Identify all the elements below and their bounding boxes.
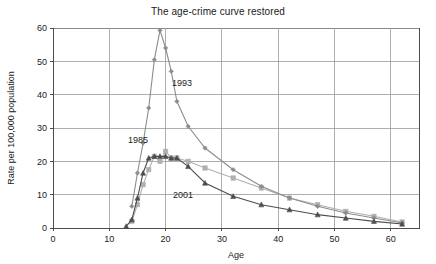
series-annotations: 199319852001 xyxy=(128,78,193,200)
x-tick-label: 60 xyxy=(386,234,396,244)
data-point-marker xyxy=(169,69,173,73)
y-tick-label: 0 xyxy=(42,223,47,233)
data-point-marker xyxy=(203,166,207,170)
axis-labels: 01020304050600102030405060AgeRate per 10… xyxy=(6,23,396,260)
x-tick-label: 50 xyxy=(330,234,340,244)
y-axis-label: Rate per 100,000 population xyxy=(6,71,16,185)
x-axis-label: Age xyxy=(228,250,244,260)
data-point-marker xyxy=(141,182,145,186)
data-point-marker xyxy=(186,159,190,163)
data-point-marker xyxy=(163,46,167,50)
age-crime-line-chart: 01020304050600102030405060AgeRate per 10… xyxy=(0,0,436,264)
data-point-marker xyxy=(158,159,162,163)
series-line-1985 xyxy=(132,151,402,222)
data-point-marker xyxy=(135,171,139,175)
series-annotation-1993: 1993 xyxy=(172,78,192,88)
x-tick-label: 30 xyxy=(217,234,227,244)
x-tick-label: 0 xyxy=(50,234,55,244)
y-tick-label: 60 xyxy=(37,23,47,33)
tick-marks xyxy=(50,28,391,231)
data-point-marker xyxy=(141,170,146,175)
data-point-marker xyxy=(158,28,162,32)
y-tick-label: 30 xyxy=(37,123,47,133)
y-tick-label: 20 xyxy=(37,157,47,167)
gridlines xyxy=(53,28,419,228)
y-tick-label: 50 xyxy=(37,57,47,67)
chart-container: The age-crime curve restored 01020304050… xyxy=(0,0,436,264)
x-tick-label: 20 xyxy=(161,234,171,244)
data-point-marker xyxy=(147,167,151,171)
data-point-marker xyxy=(163,149,167,153)
x-tick-label: 10 xyxy=(104,234,114,244)
data-point-marker xyxy=(231,176,235,180)
y-tick-label: 10 xyxy=(37,190,47,200)
series-1993 xyxy=(130,28,405,225)
series-annotation-1985: 1985 xyxy=(128,135,148,145)
data-point-marker xyxy=(175,99,179,103)
data-point-marker xyxy=(130,204,134,208)
data-point-marker xyxy=(147,106,151,110)
series-annotation-2001: 2001 xyxy=(173,190,193,200)
y-tick-label: 40 xyxy=(37,90,47,100)
x-tick-label: 40 xyxy=(273,234,283,244)
